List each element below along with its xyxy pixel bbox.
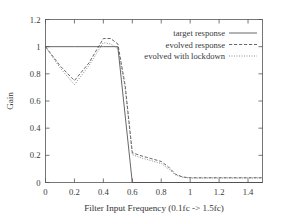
y-tick-label: 0 — [36, 178, 40, 188]
y-tick-label: 0.2 — [30, 150, 41, 160]
line-chart: 00.20.40.60.811.2 00.20.40.60.811.21.4 t… — [0, 0, 290, 224]
chart-legend: target responseevolved responseevolved w… — [144, 28, 257, 61]
y-axis-label: Gain — [5, 92, 15, 110]
legend-label-2: evolved with lockdown — [144, 51, 225, 61]
y-tick-label: 0.4 — [30, 123, 41, 133]
series-line-0 — [46, 47, 263, 183]
chart-figure: 00.20.40.60.811.2 00.20.40.60.811.21.4 t… — [0, 0, 290, 224]
x-tick-label: 0.8 — [156, 187, 167, 197]
y-tick-label: 1 — [36, 42, 40, 52]
legend-label-0: target response — [173, 28, 225, 38]
x-tick-label: 1 — [188, 187, 192, 197]
y-tick-label: 0.6 — [30, 96, 41, 106]
x-tick-label: 1.2 — [214, 187, 225, 197]
legend-label-1: evolved response — [166, 40, 226, 50]
x-tick-label: 0.2 — [69, 187, 80, 197]
y-tick-label: 1.2 — [30, 15, 41, 25]
x-tick-label: 1.4 — [243, 187, 254, 197]
series-line-2 — [46, 43, 263, 178]
x-tick-label: 0 — [43, 187, 47, 197]
x-tick-label: 0.6 — [127, 187, 138, 197]
y-axis-ticks: 00.20.40.60.811.2 — [30, 15, 263, 188]
x-tick-label: 0.4 — [98, 187, 109, 197]
plot-frame — [46, 20, 263, 183]
y-tick-label: 0.8 — [30, 69, 41, 79]
x-axis-label: Filter Input Frequency (0.1fc -> 1.5fc) — [84, 203, 224, 213]
